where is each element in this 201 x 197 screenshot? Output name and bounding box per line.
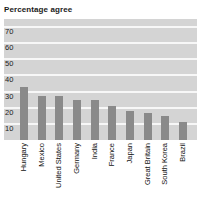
x-label-slot: Great Britain [139,141,157,197]
bar-slot [68,19,86,140]
bar[interactable] [161,116,169,140]
bar-slot [121,19,139,140]
bar-chart: Percentage agree 70605040302010 HungaryM… [0,0,201,197]
x-label-slot: Germany [68,141,86,197]
chart-title: Percentage agree [4,5,72,14]
x-axis-label: Germany [73,143,81,174]
bar[interactable] [73,100,81,140]
bars [4,19,197,140]
x-label-slot: India [86,141,104,197]
bar-slot [174,19,192,140]
x-label-slot: Japan [121,141,139,197]
bar-slot [33,19,51,140]
bar-slot [139,19,157,140]
x-axis-label: Hungary [20,143,28,171]
x-axis-label: Brazil [179,143,187,162]
bar-slot [50,19,68,140]
bar-slot [86,19,104,140]
x-label-slot: Mexico [33,141,51,197]
x-axis-label: South Korea [161,143,169,185]
x-label-slot: Brazil [174,141,192,197]
bar[interactable] [20,87,28,140]
x-axis-label: United States [55,143,63,188]
x-axis-labels: HungaryMexicoUnited StatesGermanyIndiaFr… [4,141,197,197]
bar-slot [104,19,122,140]
bar[interactable] [179,122,187,140]
bar[interactable] [91,100,99,140]
x-axis-label: Great Britain [144,143,152,185]
x-label-slot: United States [50,141,68,197]
x-label-slot: South Korea [157,141,175,197]
bar-slot [15,19,33,140]
bar[interactable] [144,113,152,140]
bar[interactable] [38,96,46,140]
x-axis-label: Japan [126,143,134,163]
x-axis-label: India [91,143,99,159]
x-axis-label: Mexico [38,143,46,167]
x-axis-label: France [108,143,116,166]
x-label-slot: Hungary [15,141,33,197]
bar[interactable] [108,106,116,140]
bar[interactable] [126,111,134,140]
bar[interactable] [55,96,63,140]
x-label-slot: France [104,141,122,197]
bar-slot [157,19,175,140]
plot-area: 70605040302010 [4,19,197,140]
